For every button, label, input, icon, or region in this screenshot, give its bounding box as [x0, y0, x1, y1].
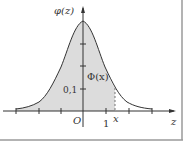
- shaded-area: [16, 21, 115, 111]
- tick-label-one: 1: [103, 118, 109, 129]
- x-axis-label: z: [170, 116, 177, 127]
- y-axis-label: φ(z): [54, 5, 74, 16]
- tick-label-x: x: [113, 113, 119, 124]
- normal-distribution-chart: φ(z) z O 1 x 0,1 Φ(x): [0, 0, 184, 144]
- area-label: Φ(x): [87, 71, 109, 82]
- y-tick-label: 0,1: [63, 85, 77, 95]
- y-axis-arrow-icon: [81, 6, 85, 13]
- x-axis-arrow-icon: [169, 109, 176, 113]
- origin-label: O: [73, 115, 81, 126]
